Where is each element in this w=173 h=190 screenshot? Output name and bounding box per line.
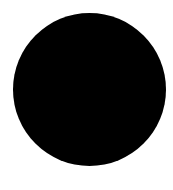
- canvas: [0, 0, 173, 190]
- black-circle: [13, 13, 166, 166]
